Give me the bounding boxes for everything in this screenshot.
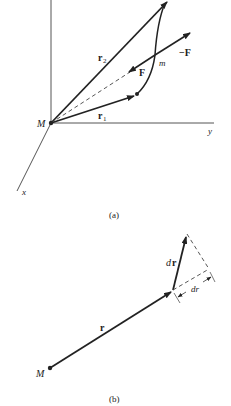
caption-b: (b) <box>109 394 120 404</box>
trajectory-curve <box>137 3 165 94</box>
origin-point-M <box>49 121 53 125</box>
start-point <box>135 92 139 96</box>
label-x-axis: x <box>21 187 26 197</box>
label-r1-sub: 1 <box>103 115 107 123</box>
dimension-tick-left <box>174 293 180 303</box>
origin-point-M-b <box>48 366 52 370</box>
label-r: r <box>100 322 105 333</box>
dimension-arrow-left <box>178 292 186 297</box>
label-y-axis: y <box>207 126 212 136</box>
figure-a: M r 2 r 1 F −F m y x (a) <box>17 0 214 220</box>
x-axis <box>17 123 51 191</box>
dimension-arrow-right <box>203 277 211 282</box>
label-M-b: M <box>35 368 45 379</box>
diagram-canvas: M r 2 r 1 F −F m y x (a) M r d r dr (b) <box>0 0 231 406</box>
caption-a: (a) <box>109 210 119 220</box>
label-F: F <box>139 67 145 78</box>
label-dr-vector-r: r <box>172 257 177 268</box>
figure-b: M r d r dr (b) <box>35 234 215 404</box>
dashed-perpendicular <box>187 234 209 269</box>
label-dr-scalar: dr <box>191 284 200 294</box>
label-M-a: M <box>36 118 46 129</box>
label-r2-sub: 2 <box>103 57 107 65</box>
label-m: m <box>159 58 166 68</box>
label-negF: −F <box>179 47 191 58</box>
dashed-line-M-to-m <box>51 72 130 123</box>
r-vector <box>50 292 171 368</box>
